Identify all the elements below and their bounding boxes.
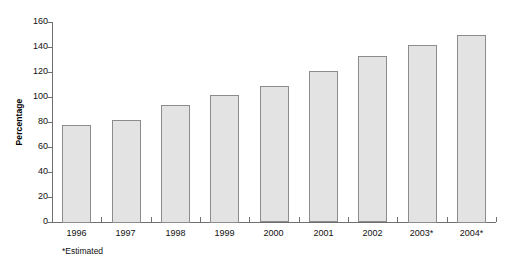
x-axis-tick <box>496 217 497 222</box>
x-axis-tick <box>151 217 152 222</box>
bar-2002 <box>358 56 387 222</box>
y-axis-tick-label: 60 <box>24 142 48 151</box>
y-axis-tick-label: 0 <box>24 217 48 226</box>
x-axis-tick-label: 2004* <box>447 228 496 238</box>
y-axis-tick-label: 160 <box>24 17 48 26</box>
plot-area: Percentage 020406080100120140160 1996199… <box>0 0 508 269</box>
y-axis-tick <box>47 172 52 173</box>
x-axis-tick-label: 2000 <box>249 228 298 238</box>
x-axis-tick <box>249 217 250 222</box>
x-axis-tick <box>299 217 300 222</box>
y-axis-tick <box>47 72 52 73</box>
x-axis-tick <box>200 217 201 222</box>
x-axis-tick-label: 2002 <box>348 228 397 238</box>
x-axis-tick <box>348 217 349 222</box>
x-axis-tick-label: 2001 <box>299 228 348 238</box>
x-axis-tick-label: 1997 <box>101 228 150 238</box>
bar-2001 <box>309 71 338 222</box>
bar-2004-estimated <box>457 35 486 223</box>
x-axis-tick-label: 1998 <box>151 228 200 238</box>
y-axis-tick-label: 20 <box>24 192 48 201</box>
x-axis-tick <box>101 217 102 222</box>
x-axis-tick-label: 1999 <box>200 228 249 238</box>
y-axis-tick-label: 140 <box>24 42 48 51</box>
bar-2000 <box>260 86 289 222</box>
bar-chart: Percentage 020406080100120140160 1996199… <box>0 0 508 269</box>
footnote-estimated: *Estimated <box>62 246 103 256</box>
bar-1997 <box>112 120 141 223</box>
y-axis-tick-label: 120 <box>24 67 48 76</box>
y-axis-line <box>52 22 53 223</box>
bar-1998 <box>161 105 190 223</box>
bar-1999 <box>210 95 239 223</box>
y-axis-tick-label: 100 <box>24 92 48 101</box>
y-axis-tick-label: 80 <box>24 117 48 126</box>
x-axis-tick-label: 2003* <box>397 228 446 238</box>
y-axis-tick <box>47 197 52 198</box>
x-axis-tick <box>447 217 448 222</box>
y-axis-tick-labels: 020406080100120140160 <box>22 0 48 269</box>
y-axis-tick-label: 40 <box>24 167 48 176</box>
y-axis-tick <box>47 147 52 148</box>
bar-1996 <box>62 125 91 223</box>
x-axis-tick <box>397 217 398 222</box>
y-axis-tick <box>47 97 52 98</box>
y-axis-tick <box>47 222 52 223</box>
y-axis-tick <box>47 122 52 123</box>
y-axis-tick <box>47 47 52 48</box>
bar-2003-estimated <box>408 45 437 223</box>
x-axis-tick-label: 1996 <box>52 228 101 238</box>
y-axis-tick <box>47 22 52 23</box>
